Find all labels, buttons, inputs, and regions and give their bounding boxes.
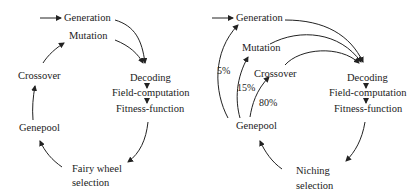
- arrow-mutation-to-decoding-left: [115, 40, 143, 63]
- arrow-generation-to-decoding-right: [285, 20, 363, 62]
- node-genepool: Genepool: [236, 120, 277, 132]
- probability-mutation: 15%: [237, 82, 255, 94]
- node-crossover: Crossover: [18, 70, 61, 82]
- arrow-selection-to-genepool-right: [260, 141, 282, 169]
- probability-crossover: 80%: [259, 97, 277, 109]
- node-decoding: Decoding: [130, 72, 171, 84]
- node-genepool: Genepool: [19, 122, 60, 134]
- node-generation: Generation: [64, 12, 111, 24]
- node-fitness-function: Fitness-function: [116, 103, 184, 115]
- node-mutation: Mutation: [242, 42, 281, 54]
- arrow-selection-to-genepool-left: [40, 141, 62, 167]
- node-mutation: Mutation: [69, 30, 108, 42]
- arrow-fitness-to-selection-left: [128, 122, 148, 162]
- node-fitness-function: Fitness-function: [334, 103, 402, 115]
- arrow-genepool-to-crossover-left: [33, 86, 35, 120]
- node-generation: Generation: [236, 12, 283, 24]
- node-selection-line2: selection: [72, 177, 109, 189]
- node-field-computation: Field-computation: [112, 87, 190, 99]
- node-decoding: Decoding: [347, 72, 388, 84]
- node-field-computation: Field-computation: [329, 87, 407, 99]
- node-crossover: Crossover: [254, 68, 297, 80]
- node-selection-line1: Niching: [296, 165, 330, 177]
- probability-generation: 5%: [217, 65, 230, 77]
- node-selection-line2: selection: [296, 180, 333, 192]
- arrow-fitness-to-selection-right: [346, 122, 365, 161]
- arrow-crossover-to-decoding-right: [285, 51, 359, 65]
- node-selection-line1: Fairy wheel: [72, 163, 122, 175]
- arrow-mutation-to-decoding-right: [270, 35, 361, 62]
- arrow-crossover-to-mutation-left: [43, 43, 64, 63]
